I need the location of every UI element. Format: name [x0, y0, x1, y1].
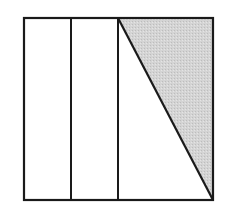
diagram-canvas — [0, 0, 227, 216]
square-diagram — [0, 0, 227, 216]
